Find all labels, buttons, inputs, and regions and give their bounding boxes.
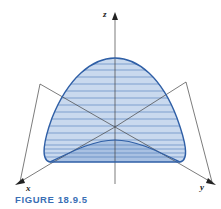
x-axis: [20, 84, 40, 182]
x-axis-label: x: [26, 183, 31, 193]
z-axis-label: z: [103, 9, 107, 19]
figure-caption: FIGURE 18.9.5: [15, 194, 88, 205]
y-axis-label: y: [200, 182, 204, 192]
z-arrowhead: [112, 12, 118, 20]
figure-diagram: [0, 0, 221, 209]
x-arrowhead: [15, 178, 25, 185]
y-axis: [186, 82, 212, 182]
